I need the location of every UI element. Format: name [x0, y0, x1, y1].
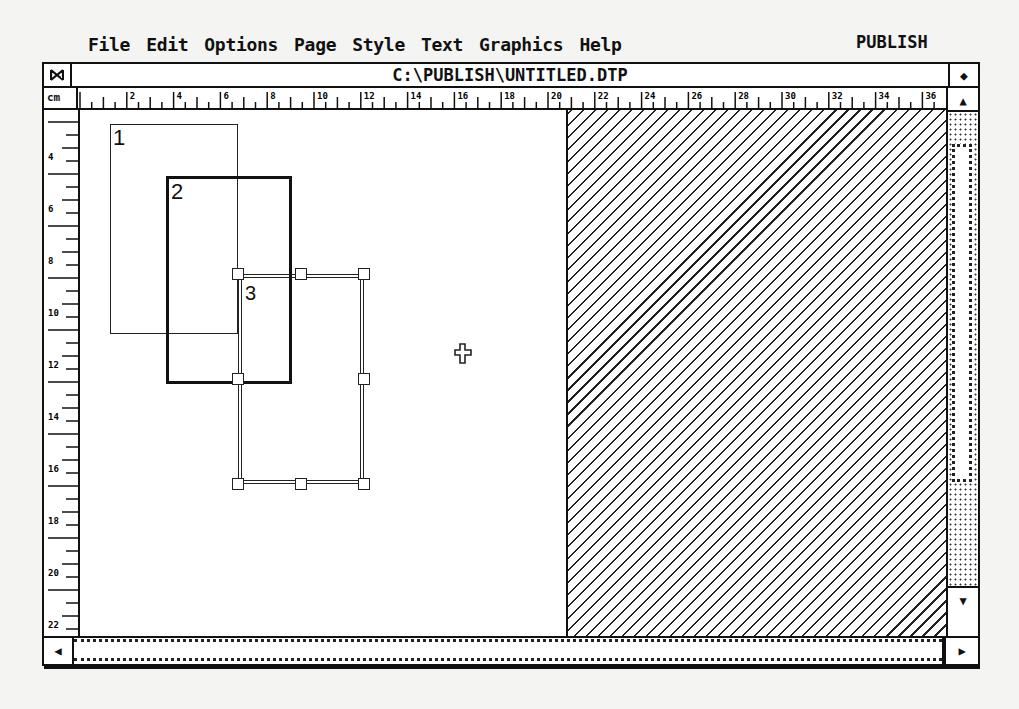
menu-help[interactable]: Help	[579, 34, 621, 55]
ruler-unit[interactable]: cm	[44, 88, 78, 110]
svg-text:20: 20	[48, 568, 59, 578]
svg-text:10: 10	[317, 91, 328, 101]
svg-text:20: 20	[551, 91, 562, 101]
menu-bar: File Edit Options Page Style Text Graphi…	[88, 32, 638, 56]
resize-handle-bottom-right[interactable]	[358, 478, 370, 490]
app-name: PUBLISH	[856, 32, 928, 52]
svg-text:26: 26	[691, 91, 702, 101]
svg-text:8: 8	[48, 256, 53, 266]
svg-text:16: 16	[48, 464, 59, 474]
svg-text:36: 36	[925, 91, 936, 101]
menu-style[interactable]: Style	[352, 34, 405, 55]
menu-file[interactable]: File	[88, 34, 130, 55]
arrow-up-icon: ▲	[959, 94, 966, 108]
svg-text:22: 22	[48, 620, 59, 630]
menu-graphics[interactable]: Graphics	[479, 34, 563, 55]
svg-text:28: 28	[738, 91, 749, 101]
horizontal-scroll-thumb[interactable]	[74, 639, 942, 661]
arrow-right-icon: ▶	[958, 644, 965, 658]
frame-3-label: 3	[245, 282, 256, 304]
svg-text:12: 12	[364, 91, 375, 101]
svg-text:24: 24	[645, 91, 656, 101]
window-title: C:\PUBLISH\UNTITLED.DTP	[72, 64, 948, 86]
svg-text:10: 10	[48, 308, 59, 318]
crosshair-cursor-icon	[454, 343, 472, 365]
scroll-left-button[interactable]: ◀	[44, 638, 72, 664]
horizontal-ruler: 24681012141618202224262830323436	[44, 88, 946, 110]
menu-text[interactable]: Text	[421, 34, 463, 55]
svg-text:34: 34	[879, 91, 890, 101]
svg-text:12: 12	[48, 360, 59, 370]
frame-3-selected[interactable]: 3	[238, 274, 364, 484]
arrow-left-icon: ◀	[54, 644, 61, 658]
layout-canvas[interactable]: 1 2 3	[80, 110, 946, 636]
svg-text:32: 32	[832, 91, 843, 101]
resize-handle-right[interactable]	[358, 373, 370, 385]
close-icon	[50, 69, 64, 81]
resize-handle-bottom[interactable]	[295, 478, 307, 490]
scroll-down-button[interactable]: ▼	[948, 588, 978, 614]
vertical-ruler-ticks: 46810121416182022	[44, 110, 78, 636]
svg-text:30: 30	[785, 91, 796, 101]
svg-text:16: 16	[457, 91, 468, 101]
menu-options[interactable]: Options	[204, 34, 278, 55]
window-shadow	[44, 664, 980, 669]
vertical-scroll-track[interactable]	[948, 110, 978, 588]
frame-2-label: 2	[171, 181, 183, 203]
title-bar[interactable]: C:\PUBLISH\UNTITLED.DTP ◆	[44, 64, 978, 88]
resize-handle-top-right[interactable]	[358, 268, 370, 280]
svg-text:8: 8	[270, 91, 275, 101]
arrow-down-icon: ▼	[959, 594, 966, 608]
svg-text:14: 14	[411, 91, 422, 101]
diamond-icon: ◆	[960, 68, 968, 83]
vertical-scrollbar[interactable]: ▲ ▼	[946, 88, 978, 636]
svg-text:6: 6	[48, 204, 53, 214]
resize-handle-top-left[interactable]	[232, 268, 244, 280]
close-box-button[interactable]	[44, 64, 72, 86]
resize-handle-bottom-left[interactable]	[232, 478, 244, 490]
frame-1-label: 1	[113, 127, 125, 149]
vertical-scroll-thumb[interactable]	[952, 144, 972, 482]
svg-text:18: 18	[48, 516, 59, 526]
zoom-box-button[interactable]: ◆	[948, 64, 978, 86]
resize-handle-left[interactable]	[232, 373, 244, 385]
svg-text:4: 4	[48, 152, 54, 162]
svg-text:14: 14	[48, 412, 59, 422]
svg-text:4: 4	[177, 91, 183, 101]
svg-text:22: 22	[598, 91, 609, 101]
horizontal-scroll-track[interactable]	[72, 638, 944, 664]
svg-text:2: 2	[130, 91, 135, 101]
scroll-right-button[interactable]: ▶	[944, 638, 978, 664]
svg-text:6: 6	[223, 91, 228, 101]
svg-text:18: 18	[504, 91, 515, 101]
vertical-ruler: 46810121416182022	[44, 110, 80, 636]
document-window: C:\PUBLISH\UNTITLED.DTP ◆ cm 24681012141…	[42, 62, 980, 666]
menu-page[interactable]: Page	[294, 34, 336, 55]
horizontal-ruler-ticks: 24681012141618202224262830323436	[44, 88, 946, 110]
pasteboard-hatched	[568, 110, 946, 636]
resize-handle-top[interactable]	[295, 268, 307, 280]
horizontal-scrollbar[interactable]: ◀ ▶	[44, 636, 978, 664]
menu-edit[interactable]: Edit	[146, 34, 188, 55]
